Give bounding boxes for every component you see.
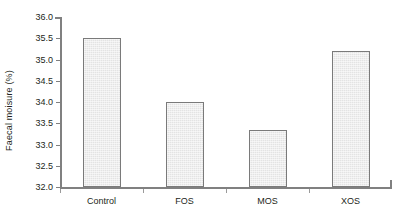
y-tick-mark	[56, 123, 60, 124]
y-axis-tick-labels: 36.035.535.034.534.033.533.032.532.0	[20, 17, 53, 188]
y-tick-label: 33.0	[35, 140, 53, 149]
y-tick-mark	[56, 187, 60, 188]
y-tick-label: 34.0	[35, 98, 53, 107]
bars-layer	[60, 17, 392, 188]
y-tick-mark	[56, 60, 60, 61]
y-tick-label: 36.0	[35, 13, 53, 22]
bar-fos	[166, 102, 204, 187]
y-tick-mark	[56, 166, 60, 167]
y-tick-label: 35.0	[35, 55, 53, 64]
y-tick-mark	[56, 38, 60, 39]
bar-control	[83, 38, 121, 187]
x-tick-mark	[143, 189, 144, 193]
y-tick-label: 35.5	[35, 34, 53, 43]
y-tick-mark	[56, 17, 60, 18]
y-tick-mark	[56, 145, 60, 146]
plot-area	[60, 17, 392, 188]
y-axis-title: Faecal moisure (%)	[0, 0, 18, 221]
y-tick-label: 32.5	[35, 161, 53, 170]
x-tick-label: FOS	[175, 196, 194, 206]
bar-xos	[332, 51, 370, 187]
x-tick-label: XOS	[341, 196, 360, 206]
y-tick-label: 32.0	[35, 183, 53, 192]
x-axis-tick-labels: ControlFOSMOSXOS	[60, 196, 392, 210]
y-tick-mark	[56, 102, 60, 103]
x-tick-label: Control	[87, 196, 116, 206]
x-tick-mark	[309, 189, 310, 193]
y-tick-label: 33.5	[35, 119, 53, 128]
bar-mos	[249, 130, 287, 187]
x-tick-mark	[60, 189, 61, 193]
bar-chart: Faecal moisure (%) 36.035.535.034.534.03…	[0, 0, 409, 221]
y-tick-mark	[56, 81, 60, 82]
x-tick-mark	[226, 189, 227, 193]
y-tick-label: 34.5	[35, 76, 53, 85]
x-tick-label: MOS	[257, 196, 278, 206]
